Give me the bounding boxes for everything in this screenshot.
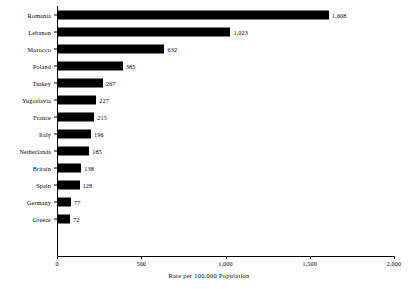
y-axis-tick xyxy=(54,151,57,152)
bar-value-label: 77 xyxy=(74,199,81,206)
bar-value-label: 128 xyxy=(83,182,93,189)
bar xyxy=(58,96,96,105)
category-label: Lebanon xyxy=(28,29,51,36)
bar xyxy=(58,79,103,88)
bar-value-label: 227 xyxy=(99,97,109,104)
bar xyxy=(58,181,80,190)
category-label: Yugoslavia xyxy=(22,97,51,104)
x-axis-tick-label: 0 xyxy=(55,260,58,267)
category-label: Netherlands xyxy=(19,148,51,155)
x-axis-tick xyxy=(394,256,395,259)
category-label: Germany xyxy=(27,199,51,206)
bar-row: Italy196 xyxy=(57,126,394,143)
category-label: Britain xyxy=(33,165,51,172)
category-label: Turkey xyxy=(32,80,51,87)
bar-value-label: 1,023 xyxy=(233,29,248,36)
category-label: Poland xyxy=(33,63,51,70)
y-axis-tick xyxy=(54,202,57,203)
y-axis-tick xyxy=(54,185,57,186)
x-axis-tick xyxy=(57,256,58,259)
bar-value-label: 138 xyxy=(84,165,94,172)
bar-row: Netherlands185 xyxy=(57,143,394,160)
bar xyxy=(58,11,329,20)
x-axis-tick-label: 500 xyxy=(136,260,146,267)
category-label: Italy xyxy=(39,131,51,138)
bar xyxy=(58,113,94,122)
category-label: Greece xyxy=(33,216,51,223)
bar-row: Britain138 xyxy=(57,160,394,177)
bar-value-label: 632 xyxy=(167,46,177,53)
bar-row: Greece72 xyxy=(57,211,394,228)
x-axis-tick-label: 2,000 xyxy=(387,260,402,267)
bar-row: Romania1,608 xyxy=(57,7,394,24)
bar-row: Yugoslavia227 xyxy=(57,92,394,109)
bar-value-label: 185 xyxy=(92,148,102,155)
bar-row: Germany77 xyxy=(57,194,394,211)
bar-row: Turkey267 xyxy=(57,75,394,92)
y-axis-tick xyxy=(54,134,57,135)
bar xyxy=(58,147,89,156)
y-axis-tick xyxy=(54,32,57,33)
bar-value-label: 196 xyxy=(94,131,104,138)
x-axis-title: Rate per 100,000 Population xyxy=(0,272,418,279)
plot-area: Romania1,608Lebanon1,023Morocco632Poland… xyxy=(57,6,394,256)
bar-row: Poland385 xyxy=(57,58,394,75)
bar-chart: Romania1,608Lebanon1,023Morocco632Poland… xyxy=(0,0,418,289)
x-axis-tick xyxy=(226,256,227,259)
category-label: Romania xyxy=(28,12,51,19)
bar-value-label: 215 xyxy=(97,114,107,121)
y-axis-tick xyxy=(54,66,57,67)
x-axis-tick xyxy=(141,256,142,259)
x-axis-tick-label: 1,000 xyxy=(218,260,233,267)
y-axis-tick xyxy=(54,100,57,101)
bar-value-label: 267 xyxy=(106,80,116,87)
bar xyxy=(58,164,81,173)
bar-value-label: 72 xyxy=(73,216,80,223)
x-axis-tick-label: 1,500 xyxy=(302,260,317,267)
y-axis-tick xyxy=(54,219,57,220)
category-label: Morocco xyxy=(28,46,51,53)
category-label: Spain xyxy=(36,182,51,189)
bar-value-label: 385 xyxy=(126,63,136,70)
x-axis-tick xyxy=(310,256,311,259)
bar-row: France215 xyxy=(57,109,394,126)
bar xyxy=(58,130,91,139)
bar xyxy=(58,62,123,71)
bar xyxy=(58,45,164,54)
bar-row: Spain128 xyxy=(57,177,394,194)
y-axis-tick xyxy=(54,49,57,50)
category-label: France xyxy=(33,114,51,121)
y-axis-tick xyxy=(54,83,57,84)
y-axis-tick xyxy=(54,15,57,16)
bar xyxy=(58,28,230,37)
bar-row: Morocco632 xyxy=(57,41,394,58)
bar-row: Lebanon1,023 xyxy=(57,24,394,41)
bar xyxy=(58,215,70,224)
bar-value-label: 1,608 xyxy=(332,12,347,19)
bar xyxy=(58,198,71,207)
y-axis-tick xyxy=(54,168,57,169)
y-axis-tick xyxy=(54,117,57,118)
